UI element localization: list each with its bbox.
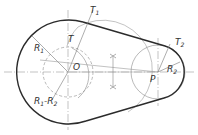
- label-t1: T1: [90, 5, 99, 16]
- tangent-line-bottom: [86, 98, 164, 121]
- label-t2: T2: [175, 37, 185, 48]
- label-r1-minus-r2: R1-R2: [34, 96, 58, 107]
- center-lines: [4, 10, 194, 130]
- label-t: T: [68, 34, 75, 44]
- label-p: P: [150, 74, 156, 84]
- tangent-construction-diagram: R1 T1 T O P T2 R2 R1-R2: [0, 0, 198, 135]
- label-o: O: [73, 62, 80, 72]
- tangent-line-top: [83, 22, 165, 46]
- construction-arc: [78, 20, 152, 112]
- diagram-canvas: R1 T1 T O P T2 R2 R1-R2: [0, 0, 198, 135]
- label-r1: R1: [34, 43, 44, 54]
- label-r2: R2: [167, 64, 177, 75]
